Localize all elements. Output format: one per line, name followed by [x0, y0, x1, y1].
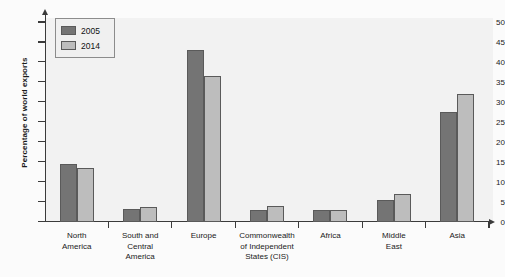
bar-2005-1 [123, 209, 140, 221]
x-tick [108, 222, 109, 228]
x-axis-label-line: South and [108, 231, 171, 242]
y-tick [38, 61, 45, 62]
legend-item-2005: 2005 [61, 23, 109, 38]
x-axis-label: Africa [299, 231, 362, 242]
legend-item-2014: 2014 [61, 38, 109, 53]
bar-2005-0 [60, 164, 77, 221]
x-axis-label-line: East [362, 242, 425, 253]
legend-swatch-icon-2014 [61, 41, 76, 50]
bar-2005-5 [377, 200, 394, 221]
x-axis-label-line: Central [108, 242, 171, 253]
x-axis-arrow-icon [489, 219, 495, 225]
bar-chart: Percentage of world exports 051015202530… [0, 0, 505, 277]
legend-swatch-icon-2005 [61, 26, 76, 35]
x-axis-label-line: Europe [172, 231, 235, 242]
x-axis-label-line: States (CIS) [235, 252, 298, 263]
x-tick [362, 222, 363, 228]
x-axis-label-line: America [108, 252, 171, 263]
x-tick [298, 222, 299, 228]
bar-2005-3 [250, 210, 267, 222]
x-tick [425, 222, 426, 228]
bar-2014-0 [77, 168, 94, 221]
bar-2014-5 [394, 194, 411, 221]
y-tick [38, 81, 45, 82]
x-axis-label: Europe [172, 231, 235, 242]
y-axis-title: Percentage of world exports [20, 23, 29, 203]
y-tick [38, 21, 45, 22]
x-axis-label: MiddleEast [362, 231, 425, 252]
x-axis-label-line: Middle [362, 231, 425, 242]
x-axis-label: NorthAmerica [45, 231, 108, 252]
x-tick [171, 222, 172, 228]
x-tick [235, 222, 236, 228]
y-tick [38, 181, 45, 182]
x-axis-label: Commonwealthof IndependentStates (CIS) [235, 231, 298, 263]
legend-label-2014: 2014 [81, 41, 100, 51]
x-axis-label-line: Africa [299, 231, 362, 242]
y-tick [38, 121, 45, 122]
x-axis-label-line: North [45, 231, 108, 242]
bar-2005-6 [440, 112, 457, 222]
x-axis-label-line: Commonwealth [235, 231, 298, 242]
bar-2005-2 [187, 50, 204, 222]
x-axis-label-line: Asia [426, 231, 489, 242]
bar-2014-2 [204, 76, 221, 222]
bar-2014-6 [457, 94, 474, 222]
bar-2014-3 [267, 206, 284, 222]
y-tick [38, 161, 45, 162]
bar-2014-4 [330, 210, 347, 222]
y-tick [38, 201, 45, 202]
x-axis-label-line: of Independent [235, 242, 298, 253]
x-axis-label: South andCentralAmerica [108, 231, 171, 263]
legend: 2005 2014 [55, 18, 115, 58]
y-tick [38, 141, 45, 142]
x-axis-label: Asia [426, 231, 489, 242]
y-tick [38, 41, 45, 42]
legend-label-2005: 2005 [81, 26, 100, 36]
bar-2014-1 [140, 207, 157, 221]
y-tick [38, 221, 45, 222]
y-tick [38, 101, 45, 102]
x-tick [488, 222, 489, 228]
bar-2005-4 [313, 210, 330, 222]
x-axis-label-line: America [45, 242, 108, 253]
